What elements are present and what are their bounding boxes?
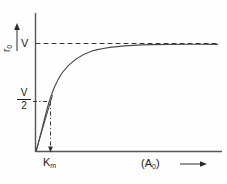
half-vmax-denominator: 2	[17, 100, 31, 112]
y-axis-label-sub: 0	[6, 45, 13, 49]
km-label-sub: m	[50, 162, 56, 169]
michaelis-menten-figure: V r0 V 2 Km (A0)	[0, 0, 227, 184]
vmax-label: V	[21, 38, 28, 49]
saturation-curve	[36, 44, 218, 151]
km-label: Km	[43, 157, 56, 169]
x-axis-label-open: (A	[141, 157, 152, 169]
y-axis-arrow-icon	[14, 23, 20, 51]
x-axis-arrow-icon	[180, 161, 207, 167]
x-axis-label-close: )	[156, 157, 160, 169]
plot-canvas	[0, 0, 227, 184]
y-axis-label-base: r	[1, 49, 12, 52]
half-vmax-label: V 2	[17, 88, 31, 111]
half-vmax-numerator: V	[17, 88, 31, 100]
x-axis-label: (A0)	[141, 158, 160, 170]
y-axis-label: r0	[2, 45, 13, 52]
